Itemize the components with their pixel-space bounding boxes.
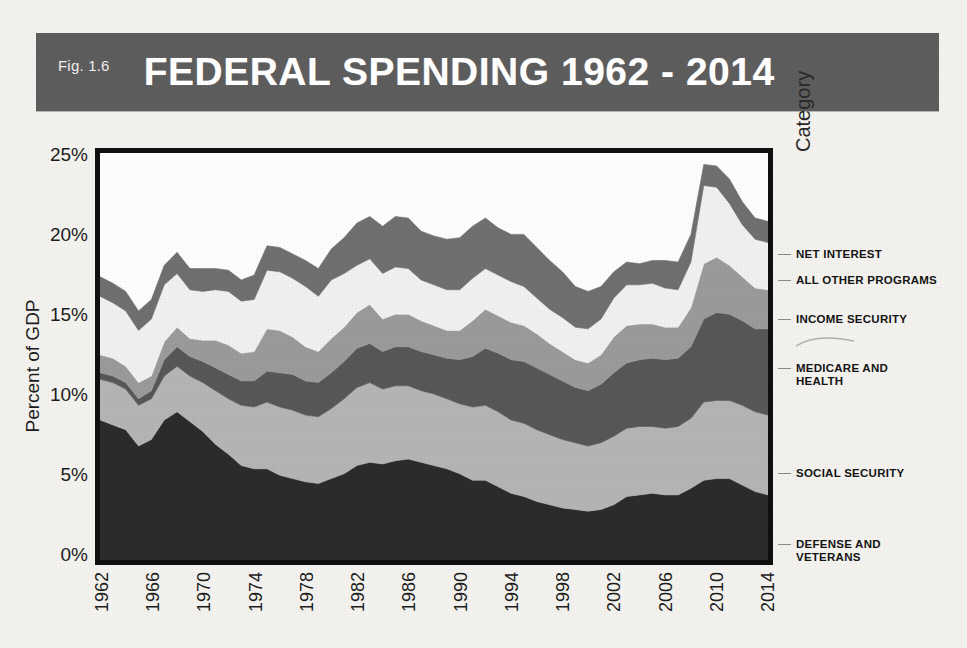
x-tick-label: 1998 (553, 572, 574, 612)
chart-container: Fig. 1.6 FEDERAL SPENDING 1962 - 2014 25… (0, 0, 967, 648)
figure-number: Fig. 1.6 (58, 57, 110, 74)
x-tick-label: 1966 (143, 572, 164, 612)
x-tick-label: 2006 (656, 572, 677, 612)
x-tick-label: 1994 (502, 572, 523, 612)
stacked-area-chart (100, 153, 768, 560)
legend-entry[interactable]: NET INTEREST (796, 248, 882, 261)
legend-leader-line (778, 368, 791, 369)
x-tick-label: 1982 (348, 572, 369, 612)
x-tick-label: 2010 (707, 572, 728, 612)
legend-leader-line (778, 254, 791, 255)
y-tick-label: 5% (61, 464, 88, 486)
plot-area (95, 148, 773, 565)
y-tick-label: 0% (61, 544, 88, 566)
x-tick-label: 2002 (604, 572, 625, 612)
x-tick-label: 1978 (297, 572, 318, 612)
legend-leader-line (778, 473, 791, 474)
legend-entry[interactable]: MEDICARE AND HEALTH (796, 362, 888, 388)
medicare-leader-arc (794, 332, 856, 348)
x-tick-label: 1962 (92, 572, 113, 612)
x-axis-ticks: 1962196619701974197819821986199019941998… (95, 572, 773, 642)
y-tick-label: 15% (50, 304, 88, 326)
legend-entry[interactable]: INCOME SECURITY (796, 313, 907, 326)
legend-leader-line (778, 544, 791, 545)
legend-entry[interactable]: DEFENSE AND VETERANS (796, 538, 881, 564)
y-tick-label: 20% (50, 224, 88, 246)
y-tick-label: 10% (50, 384, 88, 406)
x-tick-label: 1990 (451, 572, 472, 612)
legend: Category NET INTERESTALL OTHER PROGRAMSI… (778, 150, 963, 570)
chart-title: FEDERAL SPENDING 1962 - 2014 (144, 50, 775, 94)
legend-title: Category (792, 32, 815, 152)
legend-leader-line (778, 280, 791, 281)
legend-entry[interactable]: SOCIAL SECURITY (796, 467, 904, 480)
x-tick-label: 1970 (194, 572, 215, 612)
legend-entry[interactable]: ALL OTHER PROGRAMS (796, 274, 937, 287)
x-tick-label: 1986 (399, 572, 420, 612)
x-tick-label: 1974 (246, 572, 267, 612)
x-tick-label: 2014 (758, 572, 779, 612)
legend-leader-line (778, 319, 791, 320)
y-axis-title: Percent of GDP (22, 271, 44, 461)
y-tick-label: 25% (50, 144, 88, 166)
